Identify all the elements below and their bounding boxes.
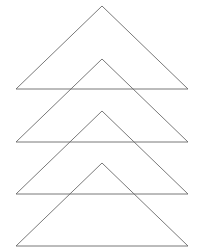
triangle-4 (16, 163, 188, 246)
triangle-2 (16, 59, 188, 142)
triangle-1 (16, 6, 188, 89)
stacked-triangles-diagram (0, 0, 200, 250)
triangle-3 (16, 111, 188, 194)
